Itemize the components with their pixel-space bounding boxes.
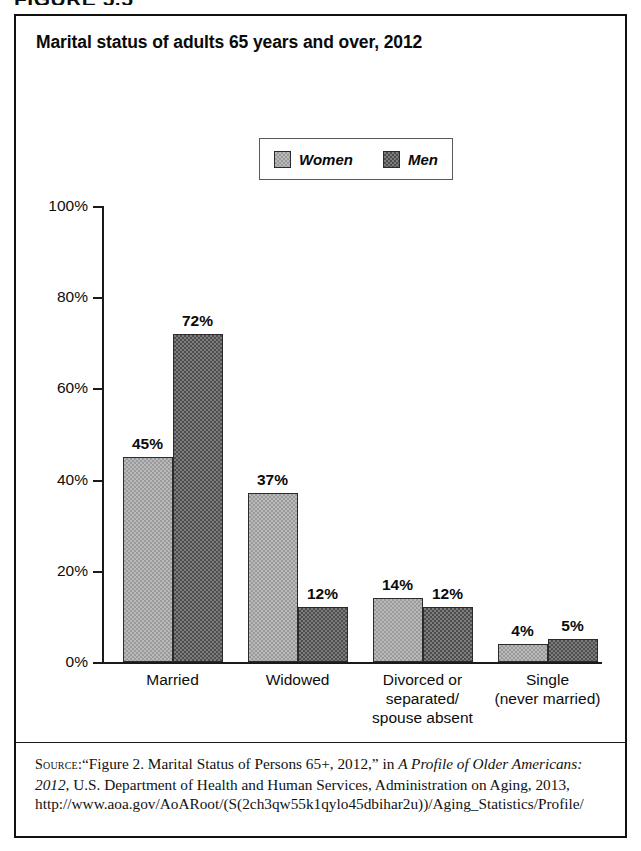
- source-divider: [16, 742, 625, 743]
- y-axis-tick-label: 80%: [57, 288, 88, 306]
- bar-women-1: [248, 493, 298, 662]
- figure-caption: FIGURE 5.5: [14, 0, 133, 5]
- category-label-line: spouse absent: [372, 708, 473, 727]
- category-label-line: separated/: [372, 689, 473, 708]
- bar-men-0: [173, 334, 223, 662]
- category-label-line: Married: [146, 670, 199, 689]
- category-label: Widowed: [266, 670, 330, 689]
- y-axis-tick-mark: [93, 480, 102, 482]
- x-axis-line: [102, 662, 602, 664]
- y-axis-tick-mark: [93, 206, 102, 208]
- bar-women-2: [373, 598, 423, 662]
- y-axis-tick-label: 40%: [57, 471, 88, 489]
- y-axis-tick-label: 0%: [66, 653, 88, 671]
- y-axis-line: [102, 206, 104, 664]
- y-axis-tick-label: 60%: [57, 379, 88, 397]
- plot-area: 0%20%40%60%80%100% 45%72%37%12%14%12%4%5…: [102, 206, 602, 664]
- bar-women-3: [498, 644, 548, 662]
- source-text-part2: , U.S. Department of Health and Human Se…: [35, 776, 584, 813]
- source-text-part1: “Figure 2. Marital Status of Persons 65+…: [82, 755, 398, 772]
- y-axis-tick-mark: [93, 662, 102, 664]
- category-label-line: Divorced or: [372, 670, 473, 689]
- y-axis-tick-mark: [93, 388, 102, 390]
- y-axis-tick-label: 100%: [48, 197, 88, 215]
- legend-entry-men: Men: [383, 151, 438, 168]
- category-label: Divorced orseparated/spouse absent: [372, 670, 473, 727]
- legend-label-men: Men: [408, 151, 438, 168]
- source-note: Source:“Figure 2. Marital Status of Pers…: [35, 754, 611, 814]
- category-label: Single(never married): [495, 670, 601, 708]
- bar-value-label: 37%: [257, 471, 288, 489]
- bar-women-0: [123, 457, 173, 662]
- bar-value-label: 14%: [382, 576, 413, 594]
- category-label-line: Single: [495, 670, 601, 689]
- y-axis-tick-mark: [93, 571, 102, 573]
- bar-value-label: 5%: [561, 617, 583, 635]
- chart-title: Marital status of adults 65 years and ov…: [36, 32, 422, 53]
- y-axis-tick-mark: [93, 297, 102, 299]
- bar-value-label: 12%: [432, 585, 463, 603]
- category-label-line: (never married): [495, 689, 601, 708]
- legend-entry-women: Women: [274, 151, 353, 168]
- legend-label-women: Women: [299, 151, 353, 168]
- bar-value-label: 4%: [511, 622, 533, 640]
- figure-box: Marital status of adults 65 years and ov…: [14, 14, 627, 838]
- category-label-line: Widowed: [266, 670, 330, 689]
- bar-value-label: 72%: [182, 312, 213, 330]
- bar-value-label: 12%: [307, 585, 338, 603]
- bar-value-label: 45%: [132, 435, 163, 453]
- bar-men-3: [548, 639, 598, 662]
- chart-legend: Women Men: [259, 138, 453, 180]
- bar-men-2: [423, 607, 473, 662]
- legend-swatch-women-icon: [274, 151, 291, 168]
- y-axis-tick-label: 20%: [57, 562, 88, 580]
- source-label: Source:: [35, 757, 82, 772]
- legend-swatch-men-icon: [383, 151, 400, 168]
- category-label: Married: [146, 670, 199, 689]
- bar-men-1: [298, 607, 348, 662]
